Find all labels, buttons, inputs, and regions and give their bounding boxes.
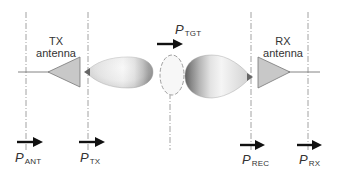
p-rec-subscript: REC	[252, 159, 270, 168]
diagram-graphics	[0, 0, 340, 171]
p-tgt-symbol: P	[175, 22, 184, 37]
tx-antenna-label-line2: antenna	[34, 47, 78, 59]
rx-antenna-icon	[258, 57, 320, 88]
arrow-p-ant-icon	[17, 137, 43, 147]
rx-antenna-label-line1: RX	[261, 35, 305, 47]
rx-antenna-label-line2: antenna	[261, 47, 305, 59]
tx-beam-lobe-icon	[84, 57, 153, 88]
p-rec-symbol: P	[242, 152, 251, 167]
tx-antenna-label: TX antenna	[34, 35, 78, 59]
p-tx-symbol: P	[80, 150, 89, 165]
rx-beam-lobe-icon	[185, 55, 253, 98]
radar-power-diagram: TX antenna RX antenna PANT PTX PTGT PREC…	[0, 0, 340, 171]
p-tgt-subscript: TGT	[185, 29, 202, 38]
arrow-p-rec-icon	[240, 140, 265, 150]
target-ellipse-icon	[160, 55, 184, 95]
p-ant-symbol: P	[15, 150, 24, 165]
label-p-rx: PRX	[299, 152, 320, 168]
arrow-p-tx-icon	[79, 137, 105, 147]
arrow-p-tgt-icon	[157, 39, 183, 49]
p-rx-symbol: P	[299, 152, 308, 167]
tx-antenna-icon	[18, 57, 80, 87]
label-p-tx: PTX	[80, 150, 100, 166]
tx-antenna-label-line1: TX	[34, 35, 78, 47]
label-p-rec: PREC	[242, 152, 269, 168]
p-tx-subscript: TX	[90, 157, 101, 166]
rx-antenna-label: RX antenna	[261, 35, 305, 59]
p-rx-subscript: RX	[309, 159, 321, 168]
label-p-ant: PANT	[15, 150, 41, 166]
arrow-p-rx-icon	[297, 140, 322, 150]
p-ant-subscript: ANT	[25, 157, 42, 166]
label-p-tgt: PTGT	[175, 22, 201, 38]
